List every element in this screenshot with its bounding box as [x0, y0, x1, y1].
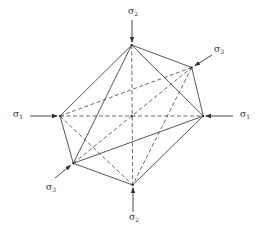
sigma-subscript: 3	[220, 48, 224, 55]
sigma1-left-label: σ1	[13, 110, 23, 120]
sigma1-right-label: σ1	[240, 110, 250, 120]
sigma2-top-label: σ2	[128, 7, 138, 17]
sigma3-upper-arrow-icon	[195, 55, 212, 66]
vertex-right	[202, 115, 204, 117]
sigma-subscript: 3	[52, 186, 56, 193]
edge-right-bottom	[133, 116, 204, 185]
octahedron-stress-diagram: σ2σ3σ1σ1σ3σ2	[0, 0, 261, 228]
sigma-subscript: 2	[134, 10, 138, 17]
vertex-left	[59, 115, 61, 117]
vertex-bottom	[132, 184, 134, 186]
sigma3-upper-label: σ3	[214, 45, 224, 55]
edge-upper_right-right	[192, 68, 204, 117]
edge-top-upper_right	[132, 45, 192, 68]
dashed-edge-upper_right-bottom	[133, 68, 192, 186]
sigma-subscript: 1	[19, 113, 23, 120]
diagram-drawing	[0, 0, 261, 228]
sigma3-lower-arrow-icon	[55, 166, 71, 179]
vertex-top	[131, 44, 133, 46]
sigma2-bottom-label: σ2	[129, 213, 139, 223]
vertex-center	[131, 115, 133, 117]
sigma3-lower-label: σ3	[46, 183, 56, 193]
edge-top-right	[132, 45, 204, 116]
dashed-edge-left-upper_right	[60, 68, 192, 117]
sigma-subscript: 1	[246, 113, 250, 120]
vertex-upper_right	[191, 66, 193, 68]
edge-lower_left-bottom	[73, 163, 132, 185]
edge-left-lower_left	[60, 116, 73, 163]
sigma-subscript: 2	[135, 216, 139, 223]
dashed-edge-left-bottom	[60, 116, 133, 185]
edge-top-left	[60, 45, 132, 116]
vertex-lower_left	[72, 162, 74, 164]
